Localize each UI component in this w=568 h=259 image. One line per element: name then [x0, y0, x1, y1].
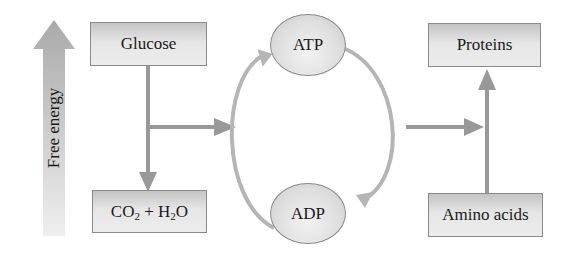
- node-proteins: Proteins: [428, 23, 541, 67]
- node-amino-acids: Amino acids: [428, 193, 543, 237]
- node-atp-label: ATP: [293, 35, 323, 55]
- node-proteins-label: Proteins: [457, 35, 513, 55]
- node-atp: ATP: [270, 14, 346, 76]
- node-amino-acids-label: Amino acids: [442, 205, 528, 225]
- energy-release-arrow-icon: [148, 118, 236, 136]
- node-glucose-label: Glucose: [121, 34, 177, 54]
- node-adp-label: ADP: [291, 204, 325, 224]
- node-co2-h2o: CO2 + H2O: [92, 190, 207, 233]
- node-adp: ADP: [270, 183, 346, 244]
- amino-to-protein-arrow-icon: [478, 69, 496, 193]
- node-glucose: Glucose: [90, 22, 207, 66]
- energy-input-arrow-icon: [406, 118, 484, 136]
- energy-coupling-diagram: Free energy Glucose CO2 + H2O ATP ADP Pr…: [0, 0, 568, 259]
- free-energy-label: Free energy: [44, 88, 64, 168]
- node-co2-h2o-label: CO2 + H2O: [111, 202, 188, 222]
